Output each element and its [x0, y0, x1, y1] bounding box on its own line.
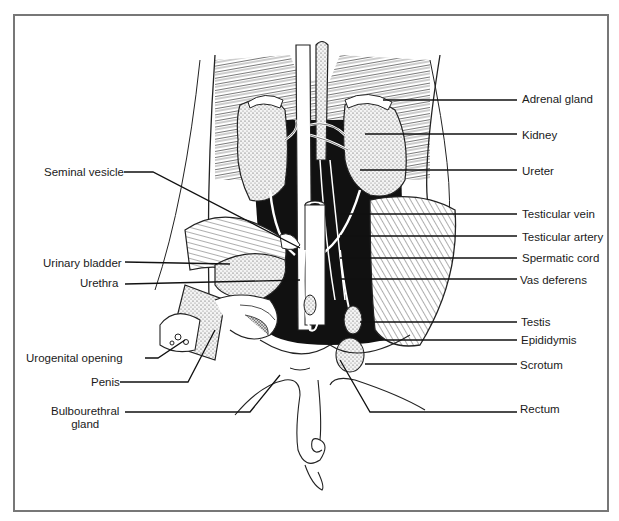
label-rectum: Rectum — [520, 403, 560, 416]
label-kidney: Kidney — [522, 129, 557, 142]
label-ureter: Ureter — [522, 165, 554, 178]
label-adrenal-gland: Adrenal gland — [522, 93, 593, 106]
label-epididymis: Epididymis — [521, 334, 577, 347]
label-seminal-vesicle: Seminal vesicle — [44, 166, 124, 179]
label-urogenital-opening: Urogenital opening — [26, 352, 123, 365]
label-bulbourethral-gland: Bulbourethral gland — [51, 405, 119, 431]
label-penis: Penis — [91, 376, 120, 389]
label-testicular-vein: Testicular vein — [522, 208, 595, 221]
label-testis: Testis — [521, 316, 550, 329]
label-scrotum: Scrotum — [520, 359, 563, 372]
label-urinary-bladder: Urinary bladder — [43, 257, 122, 270]
label-spermatic-cord: Spermatic cord — [522, 252, 599, 265]
label-testicular-artery: Testicular artery — [522, 231, 603, 244]
label-vas-deferens: Vas deferens — [520, 274, 587, 287]
label-urethra: Urethra — [80, 277, 118, 290]
